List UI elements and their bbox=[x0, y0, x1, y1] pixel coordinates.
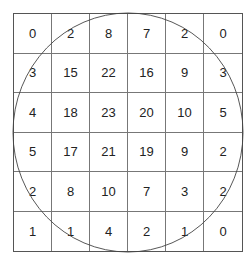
grid-cell: 20 bbox=[128, 93, 166, 133]
grid-cell: 22 bbox=[90, 54, 128, 94]
grid-cell: 0 bbox=[204, 212, 242, 252]
grid-cell: 2 bbox=[52, 14, 90, 54]
grid-cell: 5 bbox=[14, 133, 52, 173]
grid-cell: 7 bbox=[128, 14, 166, 54]
grid-cell: 2 bbox=[166, 14, 204, 54]
grid-cell: 2 bbox=[204, 133, 242, 173]
grid-cell: 17 bbox=[52, 133, 90, 173]
grid-cell: 18 bbox=[52, 93, 90, 133]
grid-cell: 3 bbox=[204, 54, 242, 94]
grid-cell: 0 bbox=[204, 14, 242, 54]
grid-cell: 21 bbox=[90, 133, 128, 173]
grid-cell: 5 bbox=[204, 93, 242, 133]
grid-cell: 7 bbox=[128, 172, 166, 212]
value-grid: 0287203152216934182320105517211992281073… bbox=[13, 13, 243, 252]
grid-cell: 2 bbox=[204, 172, 242, 212]
grid-cell: 10 bbox=[90, 172, 128, 212]
grid-cell: 4 bbox=[14, 93, 52, 133]
grid-cell: 4 bbox=[90, 212, 128, 252]
grid-cell: 2 bbox=[14, 172, 52, 212]
grid-cell: 8 bbox=[52, 172, 90, 212]
grid-cell: 0 bbox=[14, 14, 52, 54]
grid-cell: 19 bbox=[128, 133, 166, 173]
grid-cell: 8 bbox=[90, 14, 128, 54]
grid-cell: 15 bbox=[52, 54, 90, 94]
grid-cell: 3 bbox=[166, 172, 204, 212]
grid-cell: 23 bbox=[90, 93, 128, 133]
grid-cell: 9 bbox=[166, 54, 204, 94]
grid-cell: 1 bbox=[52, 212, 90, 252]
grid-cell: 10 bbox=[166, 93, 204, 133]
grid-cell: 3 bbox=[14, 54, 52, 94]
grid-cell: 1 bbox=[166, 212, 204, 252]
grid-cell: 1 bbox=[14, 212, 52, 252]
grid-cell: 9 bbox=[166, 133, 204, 173]
grid-cell: 16 bbox=[128, 54, 166, 94]
grid-cell: 2 bbox=[128, 212, 166, 252]
